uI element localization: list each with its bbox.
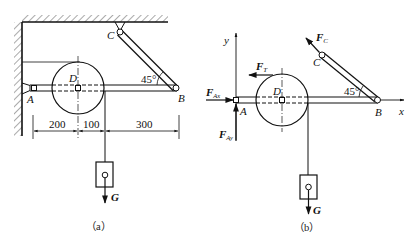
x-axis-label: x	[398, 105, 404, 117]
label-d-b: D	[272, 85, 281, 97]
pin-b-b	[375, 97, 381, 103]
pin-a	[32, 86, 37, 91]
force-fax-label: FAx	[205, 86, 220, 99]
ceiling-hatch	[22, 15, 168, 22]
label-d: D	[68, 72, 77, 84]
weight-hook-b	[306, 184, 312, 190]
label-b: B	[178, 92, 185, 104]
dim-label-100: 100	[83, 118, 100, 130]
label-c: C	[107, 29, 115, 41]
angle-arc	[157, 72, 163, 85]
pin-d	[76, 86, 81, 91]
label-b-b: B	[375, 106, 382, 118]
caption-a: （a）	[86, 221, 111, 232]
wall-hatch	[14, 22, 22, 136]
force-fay-label: FAy	[218, 128, 233, 141]
weight-hook	[102, 172, 108, 178]
statics-diagram: 45° A D B C 200 100 300 G （a） y x	[0, 0, 412, 243]
figure-a: 45° A D B C 200 100 300 G （a）	[14, 15, 185, 232]
caption-b: （b）	[294, 222, 319, 233]
figure-b: y x FC 45° FT FAx FAy	[205, 31, 404, 233]
label-c-b: C	[313, 56, 321, 68]
dim-label-200: 200	[49, 118, 66, 130]
angle-label: 45°	[141, 73, 156, 85]
label-g-b: G	[313, 204, 321, 216]
label-a: A	[26, 93, 34, 105]
pin-d-b	[280, 98, 285, 103]
angle-label-b: 45°	[344, 85, 359, 97]
pin-c	[117, 29, 123, 35]
force-fc-label: FC	[315, 31, 328, 45]
label-a-b: A	[239, 105, 247, 117]
label-g: G	[111, 191, 119, 203]
pin-a-b	[234, 98, 239, 103]
dim-label-300: 300	[136, 118, 153, 130]
y-axis-label: y	[223, 34, 229, 46]
pin-b	[173, 85, 179, 91]
force-ft-label: FT	[255, 60, 268, 74]
